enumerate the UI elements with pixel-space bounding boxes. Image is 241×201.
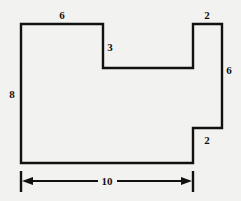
label-notch-width: 2	[204, 10, 210, 21]
stepped-polygon-outline	[21, 24, 222, 163]
polygon-diagram-svg	[0, 0, 241, 201]
label-top-width: 6	[59, 10, 65, 21]
label-right-height: 6	[226, 65, 232, 76]
figure-canvas: 6 3 2 6 8 2 10	[0, 0, 241, 201]
label-overall-width: 10	[102, 176, 113, 187]
label-lower-step: 2	[204, 135, 210, 146]
label-inner-step-drop: 3	[107, 42, 113, 53]
dimension-arrowhead-left	[22, 177, 33, 185]
label-left-height: 8	[9, 89, 15, 100]
dimension-arrowhead-right	[181, 177, 192, 185]
